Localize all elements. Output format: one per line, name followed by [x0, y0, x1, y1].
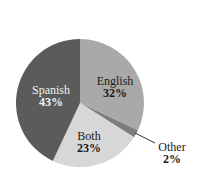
pie-chart: English 32% Spanish 43% Both 23% Other 2…: [0, 0, 198, 175]
slice-label-both: Both 23%: [77, 129, 101, 155]
slice-label-other: Other 2%: [158, 140, 185, 166]
pie-chart-canvas: English 32% Spanish 43% Both 23% Other 2…: [0, 0, 198, 175]
both-percent: 23%: [77, 141, 101, 155]
other-leader-line: [135, 133, 155, 143]
spanish-percent: 43%: [39, 95, 63, 109]
other-percent: 2%: [163, 152, 181, 166]
english-percent: 32%: [103, 86, 127, 100]
